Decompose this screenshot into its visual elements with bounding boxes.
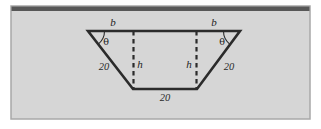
panel-top-band [12, 7, 310, 12]
label-slant-right-length: 20 [224, 61, 235, 72]
figure-container: b b θ θ 20 20 h h 20 [0, 0, 321, 129]
label-top-left-b: b [110, 16, 116, 28]
label-bottom-length: 20 [160, 92, 171, 103]
label-top-right-b: b [211, 16, 217, 28]
label-height-right-h: h [186, 58, 192, 70]
trapezoid-diagram: b b θ θ 20 20 h h 20 [0, 0, 321, 129]
label-slant-left-length: 20 [99, 61, 110, 72]
label-height-left-h: h [137, 58, 143, 70]
label-angle-right-theta: θ [219, 36, 225, 47]
label-angle-left-theta: θ [103, 36, 109, 47]
